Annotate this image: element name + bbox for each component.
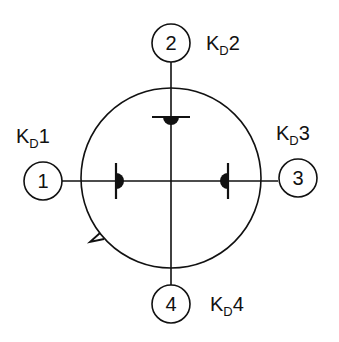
svg-text:KD4: KD4 xyxy=(210,293,244,319)
terminal-4-label: 4 xyxy=(165,293,176,315)
terminal-4: 4 xyxy=(152,285,190,323)
kd3-label: KD3 xyxy=(276,122,310,148)
terminal-2-label: 2 xyxy=(165,32,176,54)
diode-array-diagram: 1 2 3 4 KD1 KD2 KD3 KD4 xyxy=(0,0,339,342)
svg-text:KD2: KD2 xyxy=(206,32,240,58)
kd1-label: KD1 xyxy=(16,125,50,151)
kd4-label: KD4 xyxy=(210,293,244,319)
terminal-3-label: 3 xyxy=(292,167,303,189)
diode-3-symbol xyxy=(220,163,228,199)
kd2-label: KD2 xyxy=(206,32,240,58)
terminal-1: 1 xyxy=(24,162,62,200)
orientation-tab-icon xyxy=(90,233,104,242)
diode-1-symbol xyxy=(116,163,124,199)
terminal-1-label: 1 xyxy=(37,170,48,192)
svg-text:KD1: KD1 xyxy=(16,125,50,151)
terminal-2: 2 xyxy=(152,24,190,62)
diode-2-symbol xyxy=(152,117,190,125)
svg-text:KD3: KD3 xyxy=(276,122,310,148)
terminal-3: 3 xyxy=(279,159,317,197)
